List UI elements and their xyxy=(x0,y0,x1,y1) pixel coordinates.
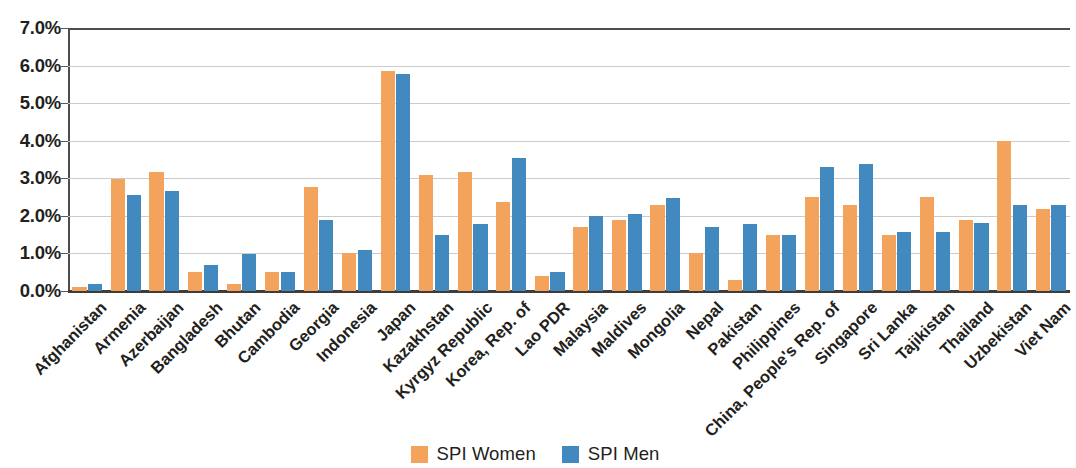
x-axis-tick-label: Mongolia xyxy=(675,298,688,311)
bar-men xyxy=(936,232,950,291)
bar-men xyxy=(319,220,333,291)
y-axis-tick-label: 4.0% xyxy=(3,130,61,152)
bar-women xyxy=(650,205,664,291)
legend-swatch-women-icon xyxy=(411,446,428,463)
y-axis-tick-label: 1.0% xyxy=(3,242,61,264)
y-axis-tickmark xyxy=(61,66,68,67)
bar-women xyxy=(997,141,1011,291)
bar-women xyxy=(149,172,163,291)
bar-women xyxy=(535,276,549,291)
legend-swatch-men-icon xyxy=(562,446,579,463)
bar-men xyxy=(88,284,102,291)
y-axis-tick-label: 3.0% xyxy=(3,167,61,189)
y-axis-tickmark xyxy=(61,141,68,142)
bar-women xyxy=(805,197,819,291)
x-axis-tick-label: Cambodia xyxy=(290,298,303,311)
y-axis-tickmark xyxy=(61,103,68,104)
y-axis-tickmark xyxy=(61,291,68,292)
y-axis-tickmark xyxy=(61,28,68,29)
bar-men xyxy=(974,223,988,291)
bar-men xyxy=(204,265,218,291)
x-axis-tick-label: Afghanistan xyxy=(97,298,110,311)
bar-men xyxy=(550,272,564,291)
bar-women xyxy=(381,71,395,291)
x-axis-tick-label: Uzbekistan xyxy=(1022,298,1035,311)
bar-women xyxy=(496,202,510,291)
bar-women xyxy=(304,187,318,291)
y-axis-tick-label: 7.0% xyxy=(3,17,61,39)
bar-women xyxy=(573,227,587,291)
x-axis-tick-label: Indonesia xyxy=(367,298,380,311)
x-axis-tick-label: Armenia xyxy=(136,298,149,311)
bar-women xyxy=(458,172,472,291)
y-axis-tickmark xyxy=(61,253,68,254)
legend-item-women[interactable]: SPI Women xyxy=(411,443,536,465)
bar-women xyxy=(188,272,202,291)
plot-area xyxy=(68,28,1070,291)
x-axis-tick-label: Pakistan xyxy=(752,298,765,311)
x-axis-tick-label: Azerbaijan xyxy=(174,298,187,311)
bar-women xyxy=(920,197,934,291)
x-axis-tick-label: Kazakhstan xyxy=(444,298,457,311)
bar-men xyxy=(782,235,796,291)
legend-label: SPI Men xyxy=(588,443,660,465)
legend-item-men[interactable]: SPI Men xyxy=(562,443,660,465)
bar-men xyxy=(705,227,719,291)
bar-men xyxy=(473,224,487,291)
bar-men xyxy=(165,191,179,291)
x-axis-tick-label: Sri Lanka xyxy=(907,298,920,311)
bar-women xyxy=(111,179,125,291)
bar-men xyxy=(358,250,372,291)
x-axis-tick-label: Korea, Rep. of xyxy=(521,298,534,311)
bar-men xyxy=(242,254,256,291)
y-axis-tick-label: 6.0% xyxy=(3,55,61,77)
bar-women xyxy=(1036,209,1050,291)
bar-men xyxy=(1051,205,1065,291)
bar-women xyxy=(265,272,279,291)
bar-men xyxy=(512,158,526,291)
bar-men xyxy=(1013,205,1027,291)
bar-women xyxy=(766,235,780,291)
bar-men xyxy=(820,167,834,291)
bar-women xyxy=(227,284,241,292)
chart-legend: SPI WomenSPI Men xyxy=(0,440,1070,468)
bar-women xyxy=(72,287,86,291)
bar-men xyxy=(281,272,295,291)
bar-women xyxy=(612,220,626,291)
x-axis-tick-label: Tajikistan xyxy=(945,298,958,311)
x-axis-tick-label: Singapore xyxy=(868,298,881,311)
x-axis-tick-label: Bangladesh xyxy=(213,298,226,311)
bar-men xyxy=(628,214,642,291)
x-axis-tick-label: Nepal xyxy=(714,298,727,311)
x-axis-tick-label: Kyrgyz Republic xyxy=(483,298,496,311)
bar-men xyxy=(435,235,449,291)
y-axis-tickmark xyxy=(61,178,68,179)
bar-men xyxy=(666,198,680,291)
x-axis-tick-label: Thailand xyxy=(984,298,997,311)
bar-women xyxy=(419,175,433,291)
bar-men xyxy=(897,232,911,291)
y-axis-tick-label: 5.0% xyxy=(3,92,61,114)
x-axis-tick-label: Maldives xyxy=(637,298,650,311)
x-axis-tick-label: Malaysia xyxy=(598,298,611,311)
y-axis-tick-label: 2.0% xyxy=(3,205,61,227)
bar-women xyxy=(342,253,356,291)
bar-women xyxy=(882,235,896,291)
bar-women xyxy=(689,253,703,291)
bar-men xyxy=(859,164,873,291)
bar-men xyxy=(127,195,141,291)
bar-men xyxy=(743,224,757,291)
x-axis-tick-label: Georgia xyxy=(329,298,342,311)
x-axis-tick-label: Lao PDR xyxy=(560,298,573,311)
x-axis-tick-label: Japan xyxy=(406,298,419,311)
bar-women xyxy=(843,205,857,291)
bar-men xyxy=(589,216,603,291)
bar-men xyxy=(396,74,410,291)
x-axis-tick-label: Bhutan xyxy=(251,298,264,311)
bar-women xyxy=(728,280,742,291)
x-axis-tick-label: China, People's Rep. of xyxy=(830,298,843,311)
x-axis: AfghanistanArmeniaAzerbaijanBangladeshBh… xyxy=(0,296,1070,426)
x-axis-tick-label: Philippines xyxy=(791,298,804,311)
legend-label: SPI Women xyxy=(437,443,536,465)
